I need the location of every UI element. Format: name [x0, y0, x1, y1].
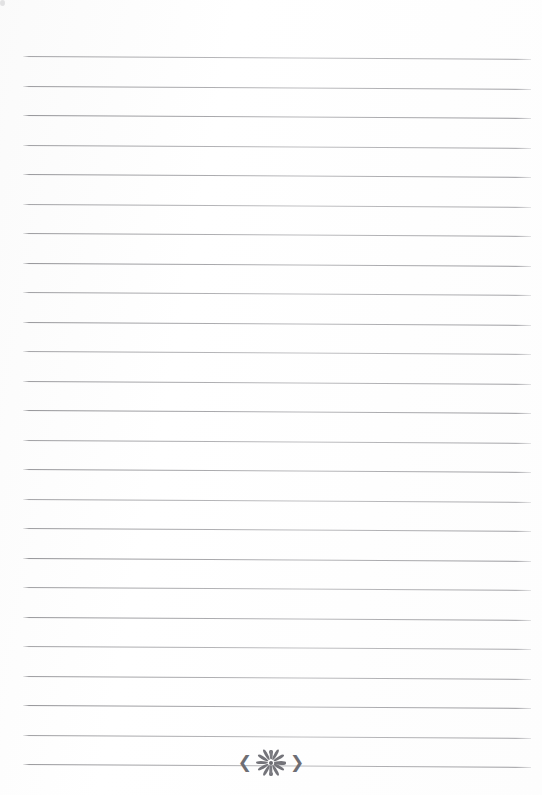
ruled-line — [23, 174, 531, 178]
ruled-lines-layer — [0, 0, 542, 795]
ruled-line — [23, 263, 531, 267]
ruled-line — [23, 469, 531, 473]
ruled-line — [23, 617, 531, 621]
ruled-line — [23, 145, 531, 149]
notebook-page: ❮ ❯ — [0, 0, 542, 795]
ruled-line — [23, 558, 531, 562]
ruled-line — [23, 410, 531, 414]
ruled-line — [23, 646, 531, 650]
ruled-line — [23, 499, 531, 503]
floral-starburst-divider: ❮ ❯ — [231, 750, 311, 776]
ruled-line — [23, 381, 531, 385]
ruled-line — [23, 587, 531, 591]
ruled-line — [23, 56, 531, 60]
ruled-line — [23, 233, 531, 237]
right-bracket-icon: ❯ — [290, 754, 304, 771]
ruled-line — [23, 705, 531, 709]
ruled-line — [23, 115, 531, 119]
ruled-line — [23, 86, 531, 90]
flower-petal — [270, 766, 273, 775]
left-bracket-icon: ❮ — [238, 754, 252, 771]
ruled-line — [23, 528, 531, 532]
ruled-line — [23, 204, 531, 208]
ruled-line — [23, 292, 531, 296]
ruled-line — [23, 676, 531, 680]
ruled-line — [23, 440, 531, 444]
starburst-flower-icon — [254, 751, 288, 775]
ruled-line — [23, 735, 531, 739]
ruled-line — [23, 351, 531, 355]
ruled-line — [23, 322, 531, 326]
